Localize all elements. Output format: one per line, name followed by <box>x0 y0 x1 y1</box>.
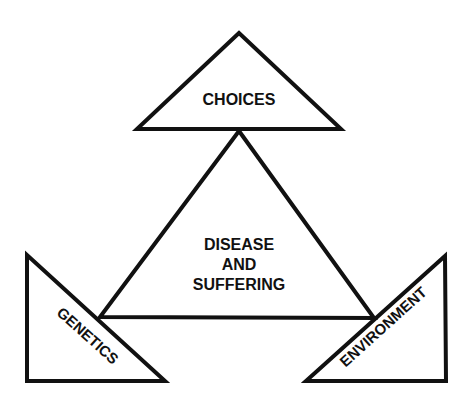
center-line-1: DISEASE <box>184 235 294 255</box>
diagram-canvas: CHOICES DISEASE AND SUFFERING GENETICS E… <box>0 0 474 404</box>
triangle-shapes <box>0 0 474 404</box>
disease-suffering-label: DISEASE AND SUFFERING <box>184 235 294 295</box>
center-line-2: AND <box>184 255 294 275</box>
choices-triangle <box>137 33 341 129</box>
choices-label: CHOICES <box>189 91 289 109</box>
center-line-3: SUFFERING <box>184 275 294 295</box>
